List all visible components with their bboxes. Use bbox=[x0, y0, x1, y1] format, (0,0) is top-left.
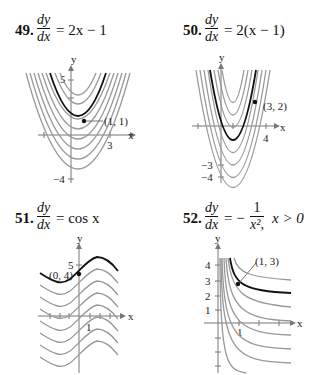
svg-text:4: 4 bbox=[263, 132, 269, 144]
svg-text:−4: −4 bbox=[201, 171, 213, 183]
slope-field-graph-52: y x 4 3 2 1 1 (1, 3) bbox=[156, 185, 313, 375]
problem-number: 50. bbox=[183, 22, 202, 39]
svg-text:3: 3 bbox=[205, 275, 211, 287]
svg-text:x: x bbox=[128, 129, 134, 141]
svg-text:3: 3 bbox=[107, 139, 113, 151]
svg-text:(1, 1): (1, 1) bbox=[104, 115, 128, 128]
slope-field-graph-49: y x 5 −4 3 (1, 1) bbox=[0, 55, 156, 185]
svg-text:(3, 2): (3, 2) bbox=[263, 100, 287, 113]
slope-field-graph-51: y x 5 1 (0, 4) bbox=[0, 185, 156, 375]
svg-text:x: x bbox=[280, 121, 286, 133]
slope-field-graph-50: y x −3 −4 4 (3, 2) bbox=[156, 55, 313, 185]
svg-text:−4: −4 bbox=[53, 173, 65, 185]
svg-text:1: 1 bbox=[205, 304, 211, 316]
svg-text:4: 4 bbox=[205, 259, 211, 271]
svg-text:2: 2 bbox=[205, 290, 211, 302]
derivative-fraction: dydx bbox=[37, 13, 50, 44]
derivative-fraction: dydx bbox=[205, 13, 218, 44]
svg-text:y: y bbox=[219, 51, 225, 63]
svg-text:x: x bbox=[297, 317, 303, 329]
svg-text:y: y bbox=[77, 232, 83, 244]
problem-number: 49. bbox=[15, 22, 34, 39]
equation-rhs: = 2x − 1 bbox=[56, 22, 107, 39]
svg-text:−3: −3 bbox=[201, 159, 213, 171]
svg-text:y: y bbox=[71, 53, 77, 65]
svg-text:x: x bbox=[128, 310, 134, 322]
svg-text:y: y bbox=[215, 232, 221, 244]
svg-text:(0, 4): (0, 4) bbox=[49, 269, 73, 282]
equation-rhs: = 2(x − 1) bbox=[224, 22, 285, 39]
svg-text:(1, 3): (1, 3) bbox=[255, 255, 279, 268]
